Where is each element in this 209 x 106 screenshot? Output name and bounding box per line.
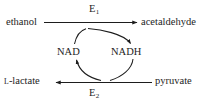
label-l-lactate: L-lactate (4, 76, 40, 87)
arrow-nad-to-nadh-upper (88, 29, 131, 44)
enzyme-e2-subscript: 2 (96, 92, 100, 100)
label-nadh: NADH (111, 47, 141, 58)
arrow-nadh-to-nad-lower (77, 60, 102, 81)
curve-nadh-to-bottom (110, 59, 133, 81)
label-nad: NAD (57, 47, 80, 58)
enzyme-e1-letter: E (89, 3, 95, 14)
curve-nad-to-top (75, 29, 87, 44)
l-lactate-stem: -lactate (9, 75, 40, 86)
label-pyruvate: pyruvate (155, 76, 192, 87)
label-enzyme-e2: E2 (89, 88, 99, 99)
enzyme-e2-letter: E (89, 87, 95, 98)
label-ethanol: ethanol (6, 17, 37, 28)
label-acetaldehyde: acetaldehyde (141, 17, 196, 28)
label-enzyme-e1: E1 (89, 4, 99, 15)
enzyme-e1-subscript: 1 (96, 8, 100, 16)
redox-cycle-diagram: ethanol acetaldehyde E1 NAD NADH L-lacta… (0, 0, 209, 106)
